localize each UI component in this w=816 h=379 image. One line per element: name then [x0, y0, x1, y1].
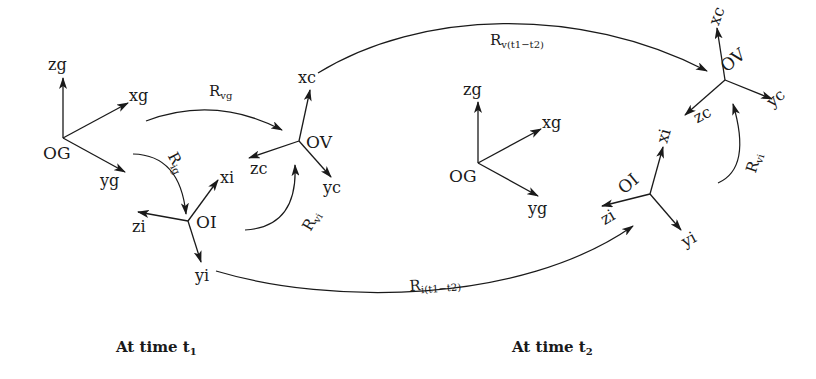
t1-yi-label: yi [195, 268, 209, 284]
t1-xg-label: xg [129, 88, 148, 104]
t2-zg-label: zg [463, 82, 482, 98]
t1-zg-label: zg [48, 57, 67, 73]
t1-zi-label: zi [132, 219, 146, 235]
t1-xi-label: xi [220, 170, 234, 186]
transition-imu-label: Ri(t1−t2) [409, 275, 462, 296]
t2-xg-axis-arrow-icon [478, 129, 541, 163]
coordinate-frames-diagram: zg xg OG yg xi OI zi yi xc OV zc yc Rvg … [0, 0, 816, 379]
t1-xc-label: xc [298, 70, 316, 86]
transition-vision-label: Rv(t1−t2) [490, 33, 544, 50]
t1-ov-origin-label: OV [306, 134, 332, 151]
t2-yg-label: yg [528, 201, 547, 217]
t2-yg-axis-arrow-icon [478, 163, 538, 196]
t1-zc-axis-arrow-icon [249, 141, 299, 158]
t2-rotation-vi-arrow-icon [718, 104, 740, 183]
caption-time-2: At time t2 [512, 338, 593, 357]
caption-time-1: At time t1 [116, 338, 197, 357]
t1-yg-label: yg [100, 173, 119, 189]
t2-xi-axis-arrow-icon [650, 147, 663, 194]
t2-yi-axis-arrow-icon [650, 194, 681, 230]
rotation-vg-arrow-icon [146, 110, 282, 130]
t1-og-origin-label: OG [43, 145, 71, 162]
t1-zc-label: zc [250, 161, 267, 177]
diagram-lines [0, 0, 816, 379]
t1-yc-label: yc [323, 180, 341, 196]
rotation-vg-label: Rvg [209, 84, 232, 101]
t1-global-frame-axes [63, 78, 128, 172]
t2-og-origin-label: OG [449, 168, 477, 185]
t2-global-frame-axes [478, 102, 541, 196]
t2-xg-label: xg [542, 115, 561, 131]
t1-xg-axis-arrow-icon [63, 103, 128, 138]
t1-oi-origin-label: OI [196, 214, 217, 231]
t1-yg-axis-arrow-icon [63, 138, 125, 172]
